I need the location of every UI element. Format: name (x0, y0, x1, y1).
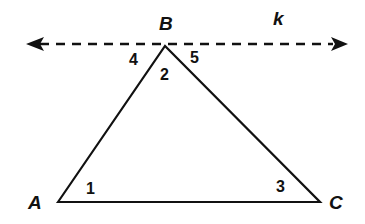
vertex-label-a: A (27, 192, 42, 213)
vertex-label-c: C (329, 192, 343, 213)
angle-label-3: 3 (276, 178, 285, 195)
line-label-k: k (273, 8, 285, 29)
angle-label-2: 2 (160, 66, 169, 83)
angle-label-5: 5 (190, 49, 199, 66)
arrowhead-right-icon (331, 37, 348, 51)
angle-label-4: 4 (129, 51, 138, 68)
vertex-label-b: B (159, 13, 173, 34)
angle-label-1: 1 (86, 180, 95, 197)
triangle-diagram: B k A C 1 2 3 4 5 (0, 0, 365, 224)
